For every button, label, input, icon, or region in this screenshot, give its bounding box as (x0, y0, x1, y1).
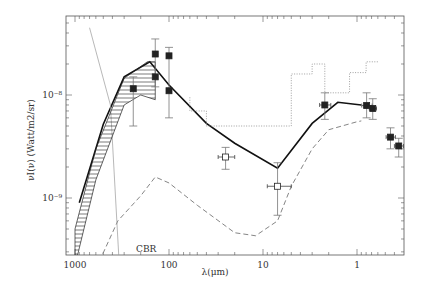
y-tick-label: 10⁻⁸ (42, 90, 62, 100)
data-point (152, 74, 158, 80)
upper-limits-line (190, 62, 378, 126)
data-point (130, 86, 136, 92)
data-point (275, 183, 281, 189)
firas-band (75, 62, 155, 266)
y-axis-ticks: 10⁻⁸10⁻⁹ (42, 23, 404, 252)
cbr-annotation: CBR (136, 244, 157, 254)
data-point (388, 134, 394, 140)
data-point (152, 51, 158, 57)
model-total-line (79, 62, 361, 203)
y-tick-label: 10⁻⁹ (42, 193, 62, 203)
data-point (322, 102, 328, 108)
data-point (364, 103, 370, 109)
model-dashed-line (90, 121, 362, 283)
data-point (166, 53, 172, 59)
x-tick-label: 100 (160, 260, 177, 270)
x-tick-label: 10 (257, 260, 269, 270)
data-point (370, 105, 376, 111)
y-axis-title: νI(ν) (Watt/m2/sr) (26, 99, 36, 181)
data-point (396, 143, 402, 149)
x-axis-title: λ(μm) (201, 267, 228, 277)
data-point (166, 88, 172, 94)
sed-chart: 1000100101 10⁻⁸10⁻⁹ CBR λ(μm) νI(ν) (Wat… (0, 0, 423, 306)
x-tick-label: 1000 (64, 260, 87, 270)
data-point (223, 154, 229, 160)
x-tick-label: 1 (354, 260, 360, 270)
series-layer (75, 28, 404, 283)
